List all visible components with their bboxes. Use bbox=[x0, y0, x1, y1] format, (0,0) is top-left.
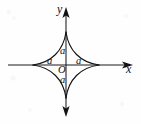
astroid-quadrant-upper-right bbox=[66, 32, 99, 65]
parameter-label-up: a bbox=[60, 46, 65, 57]
scan-noise-decor bbox=[7, 10, 128, 112]
parameter-label-left: a bbox=[47, 56, 52, 67]
parameter-label-right: a bbox=[76, 56, 81, 67]
x-axis-group bbox=[8, 61, 133, 68]
figure-canvas bbox=[0, 0, 141, 124]
astroid-figure: y x O a a a a bbox=[0, 0, 141, 124]
parameter-label-down: a bbox=[60, 75, 65, 86]
y-axis-label: y bbox=[57, 3, 62, 15]
y-axis-group bbox=[62, 7, 69, 117]
astroid-quadrant-lower-right bbox=[66, 65, 99, 98]
x-axis-label: x bbox=[126, 63, 131, 75]
